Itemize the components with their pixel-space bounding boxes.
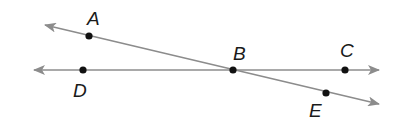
- point-d: [79, 66, 86, 73]
- point-e: [322, 89, 329, 96]
- label-b: B: [233, 43, 246, 64]
- label-a: A: [86, 8, 100, 29]
- point-a: [85, 32, 92, 39]
- geometry-diagram: ADBCE: [0, 0, 399, 130]
- point-b: [229, 66, 236, 73]
- label-d: D: [73, 80, 87, 101]
- diagram-svg: ADBCE: [0, 0, 399, 130]
- label-c: C: [340, 40, 354, 61]
- point-c: [341, 66, 348, 73]
- label-e: E: [309, 100, 322, 121]
